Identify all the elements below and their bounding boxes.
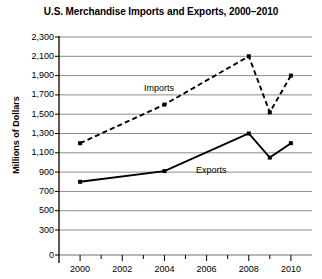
x-tick-label: 2004 <box>144 265 184 274</box>
x-tick-label: 2000 <box>60 265 100 274</box>
x-tick-label: 2010 <box>271 265 311 274</box>
x-tick-label: 2002 <box>102 265 142 274</box>
chart-figure: U.S. Merchandise Imports and Exports, 20… <box>0 0 322 279</box>
x-tick-label: 2008 <box>229 265 269 274</box>
series-annotation-imports: Imports <box>144 84 174 93</box>
x-tick-label: 2006 <box>187 265 227 274</box>
x-axis-tick-labels: 200020022004200620082010 <box>0 0 322 279</box>
series-annotation-exports: Exports <box>196 166 227 175</box>
